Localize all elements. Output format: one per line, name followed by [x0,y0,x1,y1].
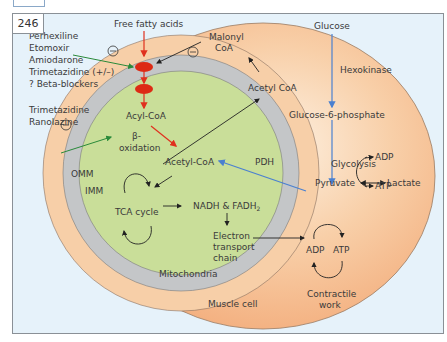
label-pyruvate: Pyruvate [315,178,356,188]
label-acyl-coa: Acyl-CoA [126,111,167,121]
label-glycolysis: Glycolysis [331,159,376,169]
label-malonyl: Malonyl [209,32,244,42]
label-chain: chain [213,253,237,263]
label-work: work [319,300,342,310]
label-imm: IMM [85,186,103,196]
label-lactate: Lactate [387,178,421,188]
cpt1-transporter [135,62,153,72]
label-hexokinase: Hexokinase [340,65,392,75]
label-muscle-cell: Muscle cell [208,299,258,309]
label-acetyl-coa-mito: Acetyl-CoA [165,157,215,167]
label-acetyl-coa-cytosol: Acetyl CoA [248,83,297,93]
cpt2-transporter [135,84,153,94]
label-glycolysis-adp: ADP [375,152,394,162]
label-tca-cycle: TCA cycle [114,207,159,217]
label-adp-work: ADP [306,245,325,255]
inhibitor-amiodarone: Amiodarone [29,55,84,65]
inhibitor-beta-blockers: ? Beta-blockers [29,79,98,89]
label-beta: β- [132,131,141,141]
figure-number: 246 [13,14,44,34]
label-free-fatty-acids: Free fatty acids [114,19,184,29]
inhibitor-trimetazidine: Trimetazidine [28,105,90,115]
label-electron: Electron [213,231,250,241]
inhibitor-ranolazine: Ranolazine [29,117,79,127]
inhibitor-trimetazidine-pm: Trimetazidine (+/–) [28,67,114,77]
header-tab-decoration [13,0,45,7]
label-malonyl-coa: CoA [215,43,234,53]
label-nadh: NADH & FADH2 [193,201,261,212]
label-mitochondria: Mitochondria [159,269,218,279]
inhibitor-etomoxir: Etomoxir [29,43,70,53]
label-glucose: Glucose [314,21,350,31]
label-atp-work: ATP [333,245,350,255]
label-omm: OMM [71,169,94,179]
label-contractile: Contractile [307,289,357,299]
figure-frame: 246 [12,13,444,334]
label-glucose-6-phosphate: Glucose-6-phosphate [289,110,385,120]
label-pdh: PDH [255,157,274,167]
label-oxidation: oxidation [119,143,161,153]
label-transport: transport [213,242,255,252]
metabolism-diagram: Perhexiline Etomoxir Amiodarone Trimetaz… [13,14,444,334]
